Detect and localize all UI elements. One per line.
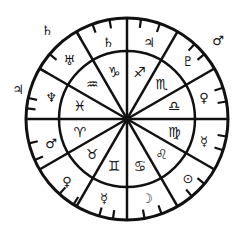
uranus-planet-icon: ♅ <box>63 53 75 68</box>
virgo-sign-icon: ♍ <box>168 124 181 140</box>
mercury-planet-icon: ☿ <box>100 191 108 206</box>
cancer-sign-icon: ♋ <box>133 158 146 174</box>
libra-sign-icon: ♎ <box>168 98 181 114</box>
sun-planet-icon: ⊙ <box>183 171 194 186</box>
pluto-planet-icon: ♇ <box>182 54 194 69</box>
saturn-planet-icon: ♄ <box>41 23 53 38</box>
astrology-chart: ♐♏♎♍♌♋♊♉♈♓♒♑ ♃♇♀☿⊙☽☿♀♂♆♅♄ ♄♃♂ <box>0 0 243 238</box>
sagittarius-sign-icon: ♐ <box>133 64 146 80</box>
saturn-planet-icon: ♄ <box>102 35 114 50</box>
jupiter-planet-icon: ♃ <box>143 35 155 50</box>
leo-sign-icon: ♌ <box>155 146 168 162</box>
mars-planet-icon: ♂ <box>45 136 57 151</box>
venus-planet-icon: ♀ <box>199 90 209 105</box>
moon-planet-icon: ☽ <box>141 191 153 206</box>
pisces-sign-icon: ♓ <box>73 98 86 114</box>
center-hub <box>124 116 130 122</box>
capricorn-sign-icon: ♑ <box>108 64 121 80</box>
aries-sign-icon: ♈ <box>73 124 86 140</box>
neptune-planet-icon: ♆ <box>45 90 57 105</box>
jupiter-planet-icon: ♃ <box>12 82 24 97</box>
aquarius-sign-icon: ♒ <box>86 76 99 92</box>
mars-planet-icon: ♂ <box>212 33 224 48</box>
taurus-sign-icon: ♉ <box>86 146 99 162</box>
gemini-sign-icon: ♊ <box>108 158 121 174</box>
scorpio-sign-icon: ♏ <box>155 76 168 92</box>
mercury-planet-icon: ☿ <box>200 134 208 149</box>
venus-planet-icon: ♀ <box>62 174 72 189</box>
